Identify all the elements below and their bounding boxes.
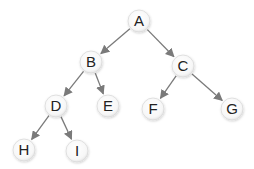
edge-C-F — [160, 76, 176, 98]
node-C: C — [172, 55, 194, 77]
node-label: E — [103, 97, 113, 114]
node-label: H — [19, 141, 30, 158]
edge-D-I — [61, 117, 71, 139]
node-label: A — [134, 12, 144, 29]
edges — [32, 29, 223, 140]
node-label: F — [148, 100, 157, 117]
node-label: G — [226, 100, 238, 117]
node-D: D — [45, 95, 67, 117]
edge-A-C — [147, 30, 174, 57]
node-E: E — [97, 95, 119, 117]
edge-B-E — [95, 73, 103, 94]
node-A: A — [128, 10, 150, 32]
node-label: I — [75, 142, 79, 159]
node-G: G — [221, 98, 243, 120]
tree-diagram: ABCDEFGHI — [0, 0, 254, 169]
node-label: D — [51, 97, 62, 114]
node-F: F — [142, 98, 164, 120]
edge-D-H — [32, 116, 49, 140]
node-B: B — [80, 51, 102, 73]
nodes: ABCDEFGHI — [13, 10, 243, 162]
tree-svg: ABCDEFGHI — [0, 0, 254, 169]
edge-B-D — [64, 71, 83, 95]
edge-C-G — [192, 74, 222, 101]
node-H: H — [13, 139, 35, 161]
node-I: I — [66, 140, 88, 162]
node-label: B — [86, 53, 96, 70]
edge-A-B — [101, 29, 130, 54]
node-label: C — [178, 57, 189, 74]
